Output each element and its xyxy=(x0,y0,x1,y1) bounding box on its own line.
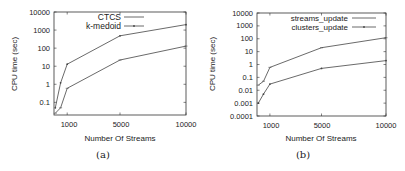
chart-a-svg: CTCS k-medoid 1000010001001010.1 1000 50… xyxy=(0,0,200,171)
series-line-clusters-update xyxy=(258,61,386,104)
svg-text:10000: 10000 xyxy=(176,120,197,129)
chart-a-y-axis-label: CPU time (sec) xyxy=(10,37,19,92)
y-tick-label: 100 xyxy=(37,44,50,53)
data-point xyxy=(66,63,68,65)
data-point xyxy=(60,82,62,84)
data-point xyxy=(257,102,259,104)
y-tick-label: 10000 xyxy=(29,8,50,17)
legend-kmedoid-marker xyxy=(133,25,135,27)
chart-b-caption: (b) xyxy=(296,149,310,160)
chart-panel-a: CTCS k-medoid 1000010001001010.1 1000 50… xyxy=(0,0,200,171)
y-tick-label: 0.1 xyxy=(40,98,50,107)
y-tick-label: 1000 xyxy=(236,21,253,30)
data-point xyxy=(385,60,387,62)
chart-a-y-tick-labels: 1000010001001010.1 xyxy=(29,8,50,107)
chart-b-svg: streams_update clusters_update 100001000… xyxy=(200,0,405,171)
chart-a-x-tick-labels: 1000 5000 10000 xyxy=(61,120,197,129)
y-tick-label: 0.0001 xyxy=(230,112,253,121)
y-tick-label: 0.001 xyxy=(234,99,253,108)
data-point xyxy=(263,93,265,95)
data-point xyxy=(269,83,271,85)
legend-clusters-update-marker xyxy=(363,26,365,28)
chart-a-caption: (a) xyxy=(96,149,110,160)
svg-text:10000: 10000 xyxy=(376,121,397,130)
chart-b-legend: streams_update clusters_update xyxy=(291,14,376,32)
legend-kmedoid-label: k-medoid xyxy=(86,21,121,31)
series-line-k-medoid xyxy=(55,25,186,108)
y-tick-label: 10 xyxy=(245,47,253,56)
svg-text:1000: 1000 xyxy=(263,121,280,130)
chart-a-series xyxy=(54,24,188,114)
data-point xyxy=(321,67,323,69)
chart-b-x-tick-labels: 1000 5000 10000 xyxy=(263,121,397,130)
chart-b-series xyxy=(257,38,388,104)
chart-b-x-axis-label: Number Of Streams xyxy=(285,134,356,143)
chart-a-legend: CTCS k-medoid xyxy=(86,12,144,31)
y-tick-label: 10000 xyxy=(232,9,253,18)
svg-text:1000: 1000 xyxy=(61,120,78,129)
y-tick-label: 1000 xyxy=(33,26,50,35)
series-line-ctcs xyxy=(55,46,186,113)
y-tick-label: 100 xyxy=(240,34,253,43)
svg-text:5000: 5000 xyxy=(314,121,331,130)
chart-b-y-axis-label: CPU time (sec) xyxy=(208,37,217,92)
series-line-streams-update xyxy=(258,38,386,85)
y-tick-label: 1 xyxy=(46,80,50,89)
svg-text:5000: 5000 xyxy=(113,120,130,129)
legend-clusters-update-label: clusters_update xyxy=(292,23,349,32)
chart-b-y-tick-labels: 1000010001001010.10.010.0010.0001 xyxy=(230,9,253,121)
y-tick-label: 0.01 xyxy=(238,86,253,95)
chart-a-x-axis-label: Number Of Streams xyxy=(84,134,155,143)
y-tick-label: 10 xyxy=(42,62,50,71)
data-point xyxy=(119,35,121,37)
data-point xyxy=(185,24,187,26)
y-tick-label: 0.1 xyxy=(243,73,253,82)
y-tick-label: 1 xyxy=(249,60,253,69)
chart-panel-b: streams_update clusters_update 100001000… xyxy=(200,0,405,171)
data-point xyxy=(54,107,56,109)
legend-streams-update-label: streams_update xyxy=(291,14,349,23)
